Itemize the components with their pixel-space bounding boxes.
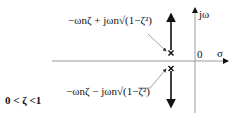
lower-pole-x-icon xyxy=(169,66,174,71)
real-axis-label: σ xyxy=(217,48,223,59)
damping-condition: 0 < ζ <1 xyxy=(5,95,41,106)
upper-pole-label: −ωnζ + jωn√(1−ζ²) xyxy=(68,15,152,26)
upper-pointer-line xyxy=(148,34,166,51)
origin-label: 0 xyxy=(197,49,203,60)
lower-pole-label: −ωnζ − jωn√(1−ζ²) xyxy=(66,86,150,97)
upper-pole-x-icon xyxy=(169,51,174,56)
pole-diagram: −ωnζ + jωn√(1−ζ²) −ωnζ − jωn√(1−ζ²) jω 0… xyxy=(0,0,237,121)
imaginary-axis-label: jω xyxy=(199,9,209,20)
